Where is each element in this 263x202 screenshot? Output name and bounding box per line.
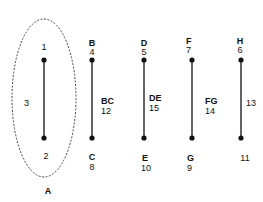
node-e [141, 135, 146, 140]
node-h-bottom [238, 135, 243, 140]
ellipse-a-label: A [45, 186, 52, 196]
node-1-number: 1 [41, 42, 46, 52]
node-c-letter: C [89, 152, 96, 162]
node-b-number: 4 [89, 47, 94, 57]
node-f [189, 57, 194, 62]
edge-bc-letter: BC [101, 96, 114, 106]
edge-fg-letter: FG [205, 96, 218, 106]
edge-fg-number: 14 [205, 106, 215, 116]
node-g-letter: G [187, 153, 194, 163]
graph-diagram: 1 2 3 A B 4 BC 12 C 8 D 5 DE 15 E 10 F 7… [0, 0, 263, 202]
node-f-number: 7 [186, 45, 191, 55]
node-h-bottom-number: 11 [240, 153, 249, 163]
edge-bc-number: 12 [101, 106, 111, 116]
node-e-number: 10 [141, 163, 151, 173]
edge-h-number: 13 [246, 98, 256, 108]
node-2 [41, 135, 46, 140]
node-h [238, 57, 243, 62]
node-b [89, 57, 94, 62]
node-d-number: 5 [141, 47, 146, 57]
node-g [189, 135, 194, 140]
node-g-number: 9 [187, 163, 192, 173]
node-e-letter: E [142, 153, 148, 163]
node-1 [41, 57, 46, 62]
edge-1-number: 3 [24, 98, 29, 108]
node-d [141, 57, 146, 62]
node-2-number: 2 [43, 151, 48, 161]
edge-de-letter: DE [149, 93, 162, 103]
edge-de-number: 15 [149, 103, 159, 113]
diagram-canvas [0, 0, 263, 202]
node-c [89, 135, 94, 140]
node-h-number: 6 [237, 45, 242, 55]
node-c-number: 8 [89, 162, 94, 172]
